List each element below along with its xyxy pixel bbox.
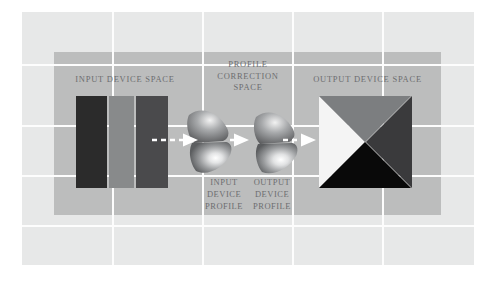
output-device-swatch — [319, 96, 412, 188]
input-profile-line-2: DEVICE — [198, 188, 250, 200]
input-device-space-title: INPUT DEVICE SPACE — [60, 74, 190, 84]
profile-correction-space-title: PROFILE CORRECTION SPACE — [198, 59, 298, 94]
correction-title-line-1: PROFILE — [198, 59, 298, 71]
output-profile-line-1: OUTPUT — [246, 176, 298, 188]
input-profile-line-3: PROFILE — [198, 200, 250, 212]
input-device-profile-label: INPUT DEVICE PROFILE — [198, 176, 250, 212]
cone-lower-lobe — [256, 143, 297, 173]
input-color-bar-shadow — [136, 96, 168, 188]
correction-title-line-3: SPACE — [198, 82, 298, 94]
cone-lower-lobe — [190, 142, 231, 173]
output-profile-line-2: DEVICE — [246, 188, 298, 200]
color-management-diagram: INPUT DEVICE SPACE OUTPUT DEVICE SPACE P… — [0, 0, 496, 284]
output-device-profile-label: OUTPUT DEVICE PROFILE — [246, 176, 298, 212]
cone-upper-lobe — [187, 111, 228, 143]
correction-title-line-2: CORRECTION — [198, 71, 298, 83]
input-profile-line-1: INPUT — [198, 176, 250, 188]
color-gamut-cone-icon — [186, 107, 244, 175]
color-gamut-cone-icon — [251, 107, 309, 175]
input-device-swatches — [76, 96, 172, 188]
output-device-space-title: OUTPUT DEVICE SPACE — [300, 74, 435, 84]
input-color-bar-mid — [109, 96, 134, 188]
cone-upper-lobe — [254, 113, 294, 144]
output-profile-line-3: PROFILE — [246, 200, 298, 212]
input-color-bar-dark — [76, 96, 107, 188]
output-triangle-bottom — [319, 142, 411, 188]
